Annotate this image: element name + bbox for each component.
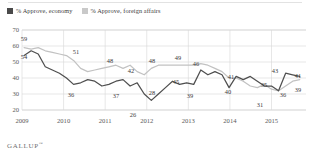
svg-text:51: 51 — [73, 48, 79, 55]
svg-text:28: 28 — [149, 89, 155, 96]
chart-legend: % Approve, economy % Approve, foreign af… — [7, 7, 161, 14]
svg-text:45: 45 — [173, 78, 179, 85]
svg-text:60: 60 — [12, 42, 19, 49]
svg-text:2014: 2014 — [223, 117, 237, 124]
svg-text:39: 39 — [295, 86, 301, 93]
svg-text:41: 41 — [228, 73, 234, 80]
legend-label-economy: % Approve, economy — [16, 7, 73, 14]
svg-text:40: 40 — [225, 88, 231, 95]
svg-text:20: 20 — [12, 106, 19, 113]
y-axis-labels: 203040506070 — [12, 26, 19, 113]
svg-text:2010: 2010 — [57, 117, 71, 124]
top-divider — [8, 2, 302, 3]
svg-text:2011: 2011 — [99, 117, 112, 124]
svg-text:2009: 2009 — [15, 117, 29, 124]
legend-label-foreign-affairs: % Approve, foreign affairs — [91, 7, 161, 14]
x-axis-labels: 2009201020112012201320142015 — [15, 117, 278, 124]
svg-text:50: 50 — [12, 58, 19, 65]
legend-swatch-foreign-affairs-icon — [82, 8, 88, 14]
legend-swatch-economy-icon — [7, 8, 13, 14]
gallup-logo: GALLUP™ — [7, 141, 43, 150]
legend-item-economy: % Approve, economy — [7, 7, 73, 14]
svg-text:49: 49 — [175, 54, 181, 61]
svg-text:31: 31 — [257, 101, 263, 108]
svg-text:42: 42 — [128, 67, 134, 74]
series-layer — [24, 48, 300, 101]
line-chart-svg: 203040506070 200920102011201220132014201… — [0, 22, 310, 130]
svg-text:40: 40 — [12, 74, 19, 81]
svg-text:70: 70 — [12, 26, 19, 33]
svg-text:54: 54 — [21, 53, 28, 60]
svg-text:26: 26 — [130, 111, 136, 118]
plot-area: 203040506070 200920102011201220132014201… — [0, 22, 310, 130]
svg-text:2012: 2012 — [140, 117, 153, 124]
svg-text:48: 48 — [107, 57, 113, 64]
legend-item-foreign-affairs: % Approve, foreign affairs — [82, 7, 161, 14]
svg-text:2015: 2015 — [265, 117, 279, 124]
gallup-wordmark: GALLUP — [7, 142, 39, 150]
trademark-symbol: ™ — [39, 141, 44, 146]
svg-text:37: 37 — [113, 92, 120, 99]
svg-text:36: 36 — [280, 91, 286, 98]
svg-text:39: 39 — [187, 92, 193, 99]
svg-text:2013: 2013 — [182, 117, 196, 124]
svg-text:46: 46 — [193, 60, 199, 67]
svg-text:35: 35 — [261, 81, 267, 88]
svg-text:41: 41 — [295, 72, 301, 79]
svg-text:36: 36 — [68, 91, 74, 98]
svg-text:43: 43 — [272, 67, 278, 74]
grid-layer — [22, 30, 306, 110]
gallup-approval-chart: % Approve, economy % Approve, foreign af… — [0, 0, 310, 158]
svg-text:59: 59 — [21, 35, 27, 42]
svg-text:30: 30 — [12, 90, 19, 97]
svg-text:48: 48 — [149, 57, 155, 64]
data-point-labels: 5954513648423726482849453946414035314336… — [21, 35, 301, 118]
